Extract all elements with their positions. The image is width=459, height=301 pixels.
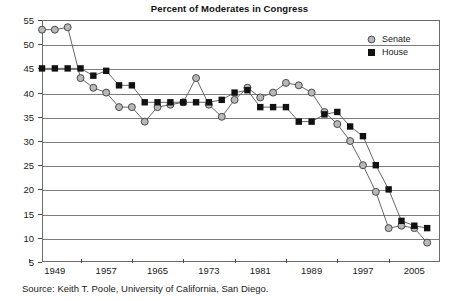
data-point [334, 109, 340, 115]
series-line [42, 27, 427, 242]
data-point [424, 239, 431, 246]
x-axis-tick-label: 1965 [147, 265, 168, 276]
data-point [167, 99, 173, 105]
y-axis-tick-label: 35 [0, 111, 34, 122]
x-axis-tick-label: 2005 [404, 265, 425, 276]
data-point [334, 121, 341, 128]
data-point [321, 111, 327, 117]
data-point [257, 104, 263, 110]
data-point [64, 24, 71, 31]
data-point [39, 26, 46, 33]
data-point [398, 218, 404, 224]
data-point [52, 65, 58, 71]
x-axis-tick-label: 1989 [301, 265, 322, 276]
data-point [142, 99, 148, 105]
x-axis-tick-label: 1957 [96, 265, 117, 276]
data-point [180, 99, 186, 105]
legend-label-senate: Senate [382, 33, 411, 46]
data-point [296, 118, 302, 124]
data-point [270, 104, 276, 110]
data-point [103, 89, 110, 96]
data-point [270, 89, 277, 96]
series-house [39, 65, 431, 231]
data-point [51, 26, 58, 33]
y-axis-tick-label: 40 [0, 87, 34, 98]
y-axis-tick-label: 10 [0, 232, 34, 243]
data-point [77, 75, 84, 82]
data-point [206, 99, 212, 105]
chart-title: Percent of Moderates in Congress [0, 3, 459, 14]
data-point [385, 225, 392, 232]
data-point [282, 79, 289, 86]
data-point [373, 162, 379, 168]
y-axis-tick-label: 55 [0, 15, 34, 26]
data-point [231, 89, 237, 95]
data-point [411, 223, 417, 229]
data-point [141, 118, 148, 125]
legend-item-house[interactable]: House [365, 46, 411, 59]
data-point [103, 68, 109, 74]
legend-item-senate[interactable]: Senate [365, 33, 411, 46]
data-point [244, 87, 250, 93]
chart-legend: Senate House [365, 33, 411, 59]
data-point [193, 75, 200, 82]
data-point [90, 72, 96, 78]
x-axis-tick-label: 1949 [44, 265, 65, 276]
data-point [219, 97, 225, 103]
data-point [347, 138, 354, 145]
data-point [116, 104, 123, 111]
data-point [360, 133, 366, 139]
data-point [77, 65, 83, 71]
chart-figure: Percent of Moderates in Congress 5550454… [0, 0, 459, 301]
source-note: Source: Keith T. Poole, University of Ca… [22, 283, 268, 294]
data-point [359, 162, 366, 169]
data-point [129, 82, 135, 88]
data-point [308, 89, 315, 96]
data-point [372, 188, 379, 195]
y-axis-tick-label: 30 [0, 136, 34, 147]
data-point [64, 65, 70, 71]
y-axis-tick-label: 25 [0, 160, 34, 171]
y-axis-tick-mark [38, 262, 42, 263]
senate-circle-icon [365, 35, 378, 44]
data-point [90, 84, 97, 91]
x-axis-tick-label: 1981 [250, 265, 271, 276]
y-axis-tick-label: 50 [0, 39, 34, 50]
y-axis-tick-label: 45 [0, 63, 34, 74]
y-axis-tick-label: 20 [0, 184, 34, 195]
y-axis-tick-label: 15 [0, 208, 34, 219]
data-point [154, 99, 160, 105]
data-point [193, 99, 199, 105]
data-point [231, 96, 238, 103]
data-point [385, 186, 391, 192]
data-point [39, 65, 45, 71]
data-point [308, 118, 314, 124]
house-square-icon [365, 48, 378, 57]
x-axis-tick-label: 1997 [352, 265, 373, 276]
data-point [424, 225, 430, 231]
data-point [283, 104, 289, 110]
data-point [347, 123, 353, 129]
x-axis-tick-mark [29, 259, 30, 263]
data-point [128, 104, 135, 111]
legend-label-house: House [382, 46, 408, 59]
data-point [218, 113, 225, 120]
data-point [116, 82, 122, 88]
x-axis-tick-label: 1973 [198, 265, 219, 276]
data-point [295, 82, 302, 89]
data-point [257, 94, 264, 101]
